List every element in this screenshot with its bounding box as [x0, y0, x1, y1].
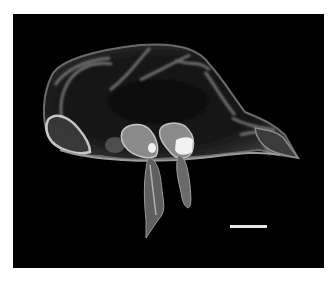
specimen-rendering	[13, 14, 324, 268]
microscopy-image	[13, 14, 324, 268]
appendage-right	[177, 155, 191, 208]
scale-bar	[230, 225, 267, 228]
